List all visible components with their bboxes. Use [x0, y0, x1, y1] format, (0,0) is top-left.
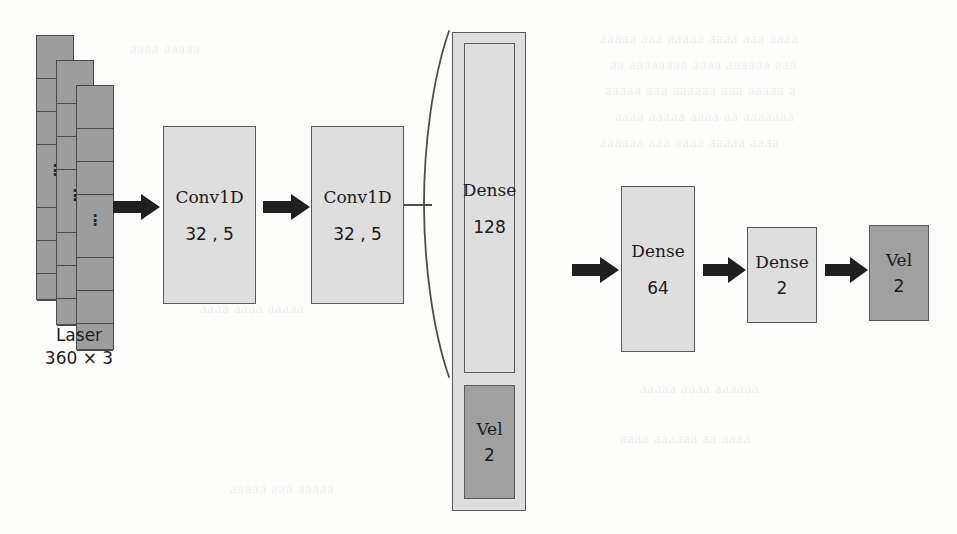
block-vel-output-title: Vel: [886, 250, 912, 270]
laser-channel-1: ...: [76, 85, 114, 350]
arrow-input-to-conv1: [113, 192, 161, 222]
block-vel-input-dim: 2: [484, 445, 495, 465]
scan-bleedthrough: aa aaaaaaaa aaaa aaaaaa aaa: [610, 56, 797, 73]
scan-bleedthrough: aaaa aaaaa aaaa aa aaaaaaa: [615, 108, 795, 125]
block-dense-64: Dense 64: [621, 186, 695, 352]
scan-bleedthrough: aaaa aaaaa: [130, 40, 201, 57]
laser-label-name: Laser: [14, 324, 144, 347]
scan-bleedthrough: aaaaa aaa aaaaa aaaa aaa aaaa: [600, 30, 799, 47]
arrow-concat-to-dense64: [572, 255, 620, 285]
block-dense-128-units: 128: [473, 217, 505, 237]
block-dense-128: Dense 128: [464, 43, 515, 373]
scan-bleedthrough: aaaaa aaaa aaaaaa: [640, 380, 759, 397]
block-vel-output-dim: 2: [894, 276, 905, 296]
block-dense-64-title: Dense: [631, 241, 684, 261]
arrow-dense64-to-dense2: [703, 255, 747, 285]
block-vel-input-title: Vel: [476, 419, 502, 439]
laser-ellipsis-1: ...: [77, 210, 113, 224]
block-conv1d-2: Conv1D 32 , 5: [311, 126, 404, 304]
block-conv1d-2-title: Conv1D: [323, 187, 391, 207]
laser-label-shape: 360 × 3: [14, 347, 144, 370]
block-dense-128-title: Dense: [463, 180, 516, 200]
block-conv1d-1: Conv1D 32 , 5: [163, 126, 256, 304]
scan-bleedthrough: aaaaa aaa aaaaa: [230, 480, 335, 497]
block-conv1d-1-title: Conv1D: [175, 187, 243, 207]
block-vel-input: Vel 2: [464, 385, 515, 499]
scan-bleedthrough: aaaaaa aaa aaaa aaaaa aaaa: [600, 134, 780, 151]
block-vel-output: Vel 2: [869, 225, 929, 321]
block-conv1d-1-params: 32 , 5: [185, 224, 234, 244]
scan-bleedthrough: aaaaa aaa aaaaaa aaa aaaaa a: [605, 82, 796, 99]
concat-bracket: [416, 28, 454, 380]
arrow-conv1-to-conv2: [263, 192, 311, 222]
block-dense-2-units: 2: [777, 278, 788, 298]
arrow-dense2-to-vel: [825, 255, 869, 285]
block-dense-2: Dense 2: [747, 227, 817, 323]
block-conv1d-2-params: 32 , 5: [333, 224, 382, 244]
block-dense-64-units: 64: [647, 278, 669, 298]
block-dense-2-title: Dense: [755, 252, 808, 272]
laser-input-label: Laser 360 × 3: [14, 324, 144, 370]
scan-bleedthrough: aaaa aaaaaa aa aaaa: [620, 430, 751, 447]
architecture-diagram: aaaaa aaa aaaaa aaaa aaa aaaa aa aaaaaaa…: [0, 0, 957, 534]
